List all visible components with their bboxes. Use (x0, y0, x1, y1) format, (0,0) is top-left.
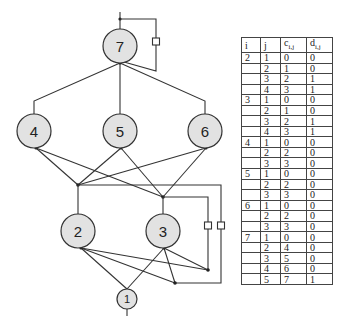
node-3: 3 (146, 214, 180, 248)
cell-d: 1 (307, 84, 333, 95)
table-row: 210 (242, 105, 333, 116)
cell-j: 3 (261, 116, 281, 127)
svg-text:2: 2 (74, 223, 82, 240)
node-1: 1 (117, 289, 137, 309)
cell-c: 4 (281, 242, 307, 253)
cell-j: 1 (261, 53, 281, 64)
cell-c: 0 (281, 169, 307, 180)
cell-c: 0 (281, 137, 307, 148)
cell-i (242, 179, 261, 190)
cell-j: 3 (261, 158, 281, 169)
cell-i (242, 74, 261, 85)
table-row: 220 (242, 211, 333, 222)
delay-unit-icon (205, 222, 212, 229)
cell-j: 3 (261, 74, 281, 85)
cell-i (242, 190, 261, 201)
cell-i: 6 (242, 200, 261, 211)
cell-j: 1 (261, 169, 281, 180)
cell-c: 2 (281, 116, 307, 127)
cell-j: 1 (261, 137, 281, 148)
cell-c: 3 (281, 126, 307, 137)
table-row: 4100 (242, 137, 333, 148)
cell-d: 1 (307, 74, 333, 85)
cell-c: 2 (281, 179, 307, 190)
cell-i (242, 253, 261, 264)
svg-text:6: 6 (201, 123, 209, 140)
header-j: j (261, 38, 281, 53)
cell-i (242, 158, 261, 169)
cell-c: 3 (281, 221, 307, 232)
cell-d: 0 (307, 221, 333, 232)
cell-c: 7 (281, 274, 307, 285)
cell-j: 3 (261, 253, 281, 264)
svg-text:1: 1 (124, 293, 130, 305)
table-body: 2100210321431310021032143141002203305100… (242, 53, 333, 285)
table-row: 321 (242, 74, 333, 85)
edges-7-to-456 (34, 61, 205, 114)
table-row: 330 (242, 190, 333, 201)
cell-c: 0 (281, 53, 307, 64)
cell-c: 0 (281, 95, 307, 106)
cell-d: 0 (307, 179, 333, 190)
cell-i (242, 274, 261, 285)
delay-unit-icon (153, 38, 160, 45)
cell-i (242, 126, 261, 137)
cell-c: 2 (281, 147, 307, 158)
cell-j: 3 (261, 190, 281, 201)
cell-i (242, 263, 261, 274)
header-i: i (242, 38, 261, 53)
cell-d: 0 (307, 232, 333, 243)
table-row: 431 (242, 84, 333, 95)
table-row: 6100 (242, 200, 333, 211)
cell-j: 1 (261, 200, 281, 211)
cell-c: 3 (281, 190, 307, 201)
cell-d: 0 (307, 169, 333, 180)
cell-c: 1 (281, 63, 307, 74)
cell-d: 0 (307, 263, 333, 274)
table-row: 5100 (242, 169, 333, 180)
cell-d: 1 (307, 126, 333, 137)
cell-i (242, 242, 261, 253)
cell-c: 2 (281, 74, 307, 85)
cell-c: 3 (281, 84, 307, 95)
table-row: 350 (242, 253, 333, 264)
cell-d: 0 (307, 105, 333, 116)
cell-j: 2 (261, 147, 281, 158)
cell-j: 5 (261, 274, 281, 285)
cell-j: 2 (261, 211, 281, 222)
table-row: 220 (242, 147, 333, 158)
cell-d: 0 (307, 53, 333, 64)
cell-i: 2 (242, 53, 261, 64)
cell-i (242, 116, 261, 127)
table-row: 220 (242, 179, 333, 190)
cell-i (242, 63, 261, 74)
table-row: 330 (242, 158, 333, 169)
node-2: 2 (61, 214, 95, 248)
cell-c: 1 (281, 105, 307, 116)
svg-text:7: 7 (116, 38, 124, 55)
table-header-row: i j ci,j di,j (242, 38, 333, 53)
table-row: 210 (242, 63, 333, 74)
cell-d: 1 (307, 274, 333, 285)
cell-d: 0 (307, 95, 333, 106)
cell-d: 0 (307, 63, 333, 74)
cell-j: 1 (261, 95, 281, 106)
cell-i (242, 221, 261, 232)
cell-d: 0 (307, 137, 333, 148)
network-diagram: 7 4 5 6 2 3 1 (0, 0, 235, 326)
cell-j: 4 (261, 126, 281, 137)
table-row: 3100 (242, 95, 333, 106)
table-row: 330 (242, 221, 333, 232)
table-row: 431 (242, 126, 333, 137)
cell-j: 1 (261, 232, 281, 243)
cell-i (242, 84, 261, 95)
cell-d: 0 (307, 200, 333, 211)
svg-text:3: 3 (159, 223, 167, 240)
connection-table: i j ci,j di,j 21002103214313100210321431… (241, 37, 333, 285)
cell-j: 4 (261, 263, 281, 274)
cell-c: 2 (281, 211, 307, 222)
cell-d: 0 (307, 211, 333, 222)
edges-23-to-output (79, 246, 209, 316)
cell-j: 3 (261, 221, 281, 232)
cell-c: 0 (281, 200, 307, 211)
